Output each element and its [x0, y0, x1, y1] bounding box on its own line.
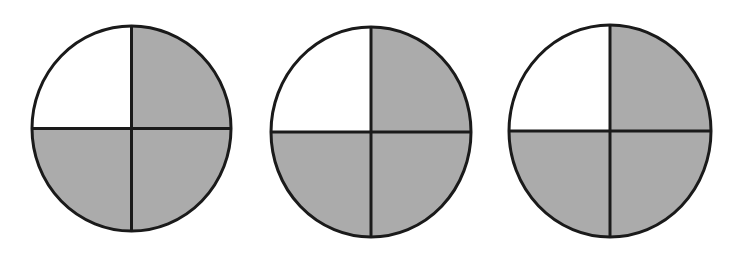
fraction-circle-1 [29, 23, 234, 234]
fraction-circle-3 [506, 22, 714, 240]
fraction-circles-figure [0, 0, 744, 255]
fraction-circle-2 [268, 24, 474, 240]
